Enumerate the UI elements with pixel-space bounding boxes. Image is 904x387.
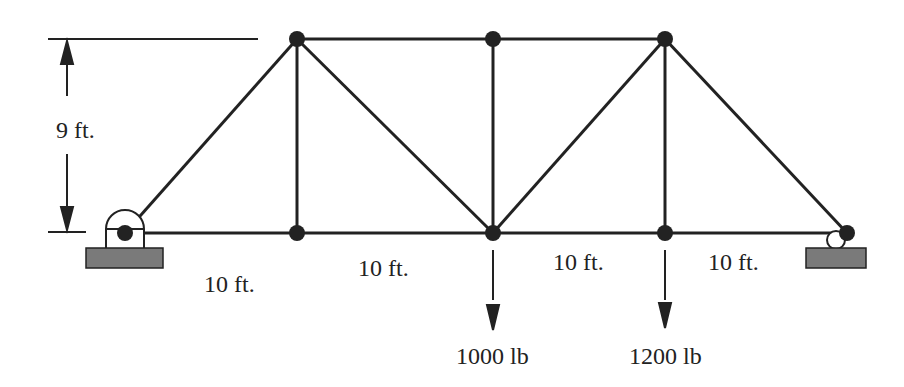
panel-1-label: 10 ft. <box>204 272 255 296</box>
truss-diagram <box>0 0 904 387</box>
load-arrow-icon <box>487 305 499 330</box>
truss-joints <box>117 31 855 241</box>
arrow-down-icon <box>61 207 73 230</box>
panel-4-label: 10 ft. <box>708 250 759 274</box>
diagonal-2 <box>493 39 665 233</box>
truss-members <box>125 39 847 233</box>
load-arrow-icon <box>659 303 671 328</box>
diagonal-1 <box>297 39 493 233</box>
load-1-label: 1000 lb <box>456 344 529 368</box>
right-end-diagonal <box>665 39 847 233</box>
arrow-up-icon <box>61 41 73 64</box>
panel-3-label: 10 ft. <box>553 250 604 274</box>
roller-support <box>806 231 866 268</box>
height-label: 9 ft. <box>56 118 95 142</box>
load-2-label: 1200 lb <box>629 344 702 368</box>
left-end-diagonal <box>125 39 297 233</box>
panel-2-label: 10 ft. <box>358 256 409 280</box>
